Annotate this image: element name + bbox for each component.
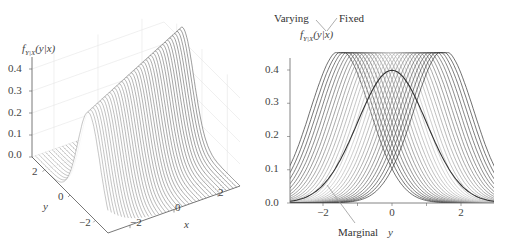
x-tick-pos2: 2 [218,186,224,198]
x-tick-0: 0 [175,201,181,213]
conditional-curve [289,53,496,203]
conditional-curve [289,53,496,203]
conditional-vs-marginal-line-plot: 0.0 0.1 0.2 0.3 0.4 −2 0 2 y Varying Fix… [265,12,496,238]
y-tick-pos2: 2 [32,165,38,177]
annotation-conditional-label: fY|X(y|x) [300,28,334,43]
right-y-tick-3: 0.3 [265,95,279,107]
right-y-tick-2: 0.2 [265,128,279,140]
conditional-curve [289,53,496,203]
conditional-curve [289,53,496,203]
conditional-curve [289,53,496,203]
conditional-curve [289,53,496,203]
annotation-varying: Varying [274,12,309,24]
conditional-curve [289,53,496,203]
conditional-curve [289,53,496,203]
conditional-curve [289,53,496,203]
x-tick-neg2: −2 [130,216,142,228]
conditional-curve [289,53,496,203]
conditional-curve [289,53,496,203]
z-tick-2: 0.2 [8,106,22,118]
right-y-tick-0: 0.0 [265,196,279,208]
annotation-marginal: Marginal [338,226,378,238]
conditional-curve [289,53,496,203]
conditional-curve [289,53,496,203]
z-tick-1: 0.1 [8,127,22,139]
conditional-density-surface-plot: fY|X(y|x) 0.0 0.1 0.2 0.3 0.4 2 0 −2 y −… [8,19,240,233]
conditional-density-curves [289,53,496,203]
y-tick-0: 0 [58,190,64,202]
conditional-curve [289,53,496,203]
z-tick-0: 0.0 [8,148,22,160]
right-y-tick-1: 0.1 [265,162,279,174]
conditional-curve [289,53,496,203]
y-tick-neg2: −2 [79,216,91,228]
conditional-curve [289,53,496,203]
right-x-tick-pos2: 2 [458,206,464,218]
figure-canvas: fY|X(y|x) 0.0 0.1 0.2 0.3 0.4 2 0 −2 y −… [0,0,505,242]
conditional-curve [289,53,496,203]
conditional-curve [289,53,496,203]
y-axis-label: y [42,200,48,212]
right-x-tick-0: 0 [389,206,395,218]
z-tick-3: 0.3 [8,84,22,96]
conditional-curve [289,53,496,203]
annotation-fixed: Fixed [339,12,365,24]
right-x-axis-label: y [387,226,393,238]
conditional-curve [289,53,496,203]
conditional-curve [289,53,496,203]
right-x-tick-neg2: −2 [317,206,329,218]
conditional-curve [289,53,496,203]
conditional-curve [289,53,496,203]
conditional-curve [289,53,496,203]
x-axis-label: x [183,218,189,230]
z-tick-4: 0.4 [8,62,22,74]
right-y-tick-4: 0.4 [265,63,279,75]
conditional-curve [289,53,496,203]
conditional-curve [289,53,496,203]
z-axis-label: fY|X(y|x) [22,42,56,57]
conditional-curve [289,53,496,203]
conditional-curve [289,53,496,203]
conditional-curve [289,53,496,203]
conditional-curve [289,53,496,203]
